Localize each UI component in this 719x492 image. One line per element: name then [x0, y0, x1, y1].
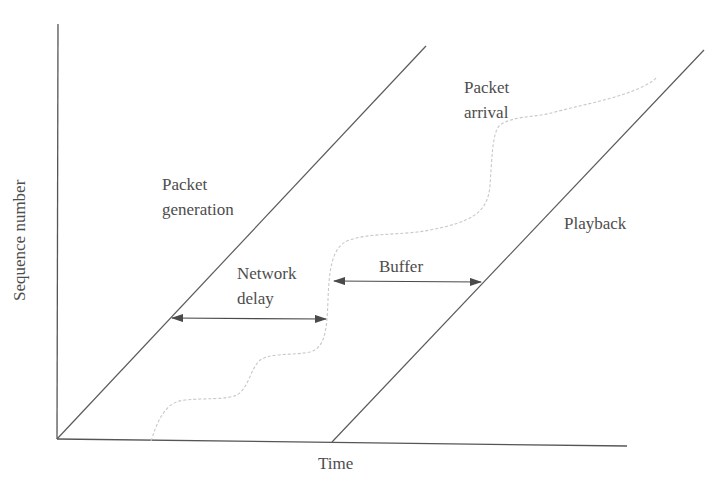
buffer-label: Buffer — [379, 257, 423, 277]
diagram-graphics — [0, 0, 719, 492]
arrival-label-line1: Packet — [464, 78, 509, 98]
playback-label: Playback — [564, 214, 626, 234]
arrival-label-line2: arrival — [464, 103, 508, 123]
generation-label-line2: generation — [162, 200, 234, 220]
y-axis — [57, 24, 58, 439]
y-axis-label: Sequence number — [10, 180, 30, 301]
x-axis-label: Time — [318, 454, 353, 474]
generation-label-line1: Packet — [162, 175, 207, 195]
network-delay-label-line2: delay — [237, 289, 274, 309]
playback-line — [332, 50, 704, 442]
x-axis — [57, 439, 627, 446]
network-delay-arrow — [172, 318, 326, 319]
diagram-canvas: Sequence number Time Packet generation P… — [0, 0, 719, 492]
buffer-arrow — [334, 281, 481, 282]
generation-line — [57, 46, 426, 439]
network-delay-label-line1: Network — [237, 264, 296, 284]
